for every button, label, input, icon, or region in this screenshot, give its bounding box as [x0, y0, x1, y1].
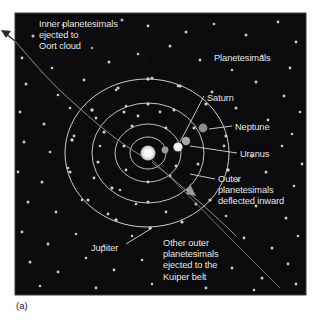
label-neptune: Neptune: [235, 122, 269, 133]
planet-neptune: [199, 124, 208, 133]
label-jupiter: Jupiter: [91, 243, 118, 254]
label-kuiper-belt-ejection: Other outer planetesimals ejected to the…: [163, 238, 219, 283]
figure-root: Inner planetesimals ejected to Oort clou…: [0, 0, 315, 321]
figure-caption: (a): [16, 300, 28, 311]
planet-saturn: [173, 142, 182, 151]
planet-uranus: [182, 137, 190, 145]
sun: [141, 146, 156, 161]
planet-jupiter: [162, 147, 169, 154]
label-saturn: Saturn: [207, 93, 234, 104]
label-planetesimals: Planetesimals: [214, 53, 271, 64]
label-inner-planetesimals-ejected: Inner planetesimals ejected to Oort clou…: [39, 19, 118, 53]
label-uranus: Uranus: [240, 149, 269, 160]
label-outer-planetesimals-deflected: Outer planetesimals deflected inward: [218, 174, 284, 208]
